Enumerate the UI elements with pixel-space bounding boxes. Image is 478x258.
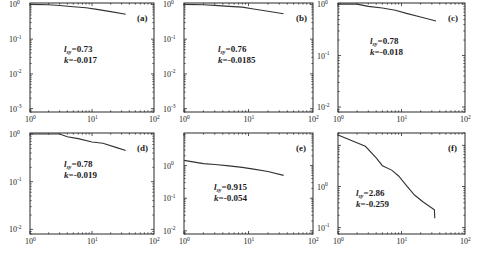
x-tick-label: 100 [179, 236, 190, 247]
y-tick-label: 100 [317, 0, 328, 9]
k-annotation: k=-0.259 [356, 199, 389, 209]
data-curve [30, 4, 126, 14]
panel-c: 10010110210010-110-2(c)lsy=0.78k=-0.018 [317, 0, 471, 124]
panel-e: 10010110210010-110-2(e)lsy=0.915k=-0.054 [163, 133, 319, 246]
k-annotation: k=-0.019 [64, 170, 97, 180]
axes-frame [338, 133, 465, 234]
axes-frame [30, 133, 154, 234]
data-curve [184, 160, 284, 175]
x-tick-label: 102 [308, 236, 319, 247]
l-sy-annotation: lsy=0.78 [64, 159, 93, 170]
panel-label: (a) [137, 13, 148, 23]
y-tick-label: 10-1 [163, 34, 176, 45]
panel-label: (b) [296, 13, 307, 23]
x-tick-label: 100 [333, 236, 344, 247]
panel-label: (e) [296, 143, 306, 153]
y-tick-label: 10-2 [163, 68, 176, 79]
y-tick-label: 10-1 [9, 176, 22, 187]
data-curve [184, 4, 284, 13]
y-tick-label: 10-2 [317, 102, 330, 113]
l-sy-annotation: lsy=0.73 [64, 44, 93, 55]
y-tick-label: 100 [317, 181, 328, 192]
x-tick-label: 101 [397, 114, 408, 125]
x-tick-label: 101 [87, 114, 98, 125]
x-tick-label: 101 [397, 236, 408, 247]
l-sy-annotation: lsy=0.78 [370, 36, 399, 47]
data-curve [30, 134, 126, 151]
y-tick-label: 10-1 [317, 222, 330, 233]
y-tick-label: 10-1 [9, 34, 22, 45]
x-tick-label: 102 [308, 114, 319, 125]
panel-a: 10010110210010-110-210-3(a)lsy=0.73k=-0.… [9, 0, 160, 124]
x-tick-label: 102 [460, 114, 471, 125]
y-tick-label: 10-2 [9, 224, 22, 235]
y-tick-label: 100 [163, 0, 174, 9]
panel-b: 10010110210010-110-210-3(b)lsy=0.76k=-0.… [163, 0, 319, 124]
panel-label: (c) [448, 13, 458, 23]
panel-f: 10010110210010-1(f)lsy=2.86k=-0.259 [317, 133, 471, 246]
x-tick-label: 101 [244, 236, 255, 247]
y-tick-label: 10-2 [9, 68, 22, 79]
axes-frame [338, 3, 465, 112]
x-tick-label: 101 [244, 114, 255, 125]
axes-frame [184, 133, 313, 234]
y-tick-label: 10-2 [163, 225, 176, 236]
k-annotation: k=-0.0185 [218, 55, 256, 65]
l-sy-annotation: lsy=0.915 [214, 182, 247, 193]
panel-label: (f) [448, 143, 457, 153]
panel-d: 10010110210010-110-2(d)lsy=0.78k=-0.019 [9, 129, 160, 246]
y-tick-label: 10-3 [163, 103, 176, 114]
x-tick-label: 101 [87, 236, 98, 247]
x-tick-label: 102 [149, 236, 160, 247]
data-curve [338, 4, 436, 21]
k-annotation: k=-0.054 [214, 193, 247, 203]
y-tick-label: 100 [163, 160, 174, 171]
x-tick-label: 100 [333, 114, 344, 125]
k-annotation: k=-0.017 [64, 55, 97, 65]
y-tick-label: 10-3 [9, 103, 22, 114]
y-tick-label: 100 [9, 0, 20, 9]
figure: 10010110210010-110-210-3(a)lsy=0.73k=-0.… [0, 0, 478, 258]
x-tick-label: 102 [460, 236, 471, 247]
x-tick-label: 100 [25, 114, 36, 125]
panel-label: (d) [137, 143, 148, 153]
y-tick-label: 10-1 [163, 193, 176, 204]
x-tick-label: 102 [149, 114, 160, 125]
x-tick-label: 100 [179, 114, 190, 125]
y-tick-label: 10-1 [317, 50, 330, 61]
l-sy-annotation: lsy=2.86 [356, 188, 385, 199]
y-tick-label: 100 [9, 129, 20, 140]
x-tick-label: 100 [25, 236, 36, 247]
l-sy-annotation: lsy=0.76 [218, 44, 247, 55]
k-annotation: k=-0.018 [370, 47, 403, 57]
